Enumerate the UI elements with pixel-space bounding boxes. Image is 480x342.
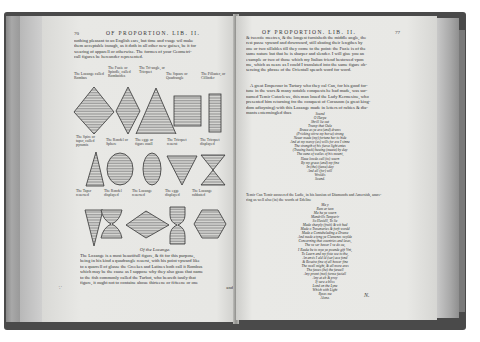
- rondel-shape: [107, 153, 133, 185]
- lozange-poem-2: Ma y Rum ar tam Ma ha ye sourn Mandrills…: [265, 203, 385, 300]
- caption-square: The Square or Quadrangle: [166, 72, 200, 80]
- right-margin-mark: N.: [364, 292, 370, 298]
- caption-pillaster: The Pillaster, or Cillinder: [201, 72, 233, 80]
- lozange-reversed-shape: [126, 211, 169, 238]
- left-intro-text: nothing pleasant to an English eare, but…: [74, 38, 232, 60]
- caption-lozange-reversed: The Lozange reuersed: [132, 189, 162, 197]
- lozange-poem-1: Sound O Harpe Shrill lie out Trump that …: [270, 112, 370, 181]
- caption-tricquet-reversed: The Tricquet reuerst: [167, 138, 197, 146]
- square-shape: [174, 96, 201, 126]
- cover-edge-right: [459, 30, 465, 312]
- taper-reversed-shape: [85, 210, 103, 246]
- page-edges-right: [437, 18, 459, 318]
- caption-taper-reversed: The Taper reuersed: [76, 189, 102, 197]
- fuzie-shape: [116, 87, 140, 134]
- figure-row-1: [70, 84, 240, 134]
- caption-fuzie: The Fuzie or Spindle, called Romboides: [108, 66, 138, 79]
- pillaster-shape: [209, 94, 221, 132]
- caption-lozange-rabbated: The Lozange rabbated: [192, 189, 224, 197]
- lozange-rabbated-shape: [194, 210, 226, 238]
- egge-shape: [143, 153, 161, 185]
- left-body-text: The Lozange is a most beautifull figure,…: [80, 253, 233, 291]
- text-line: seruing the phrase of the Orientall spea…: [246, 67, 404, 72]
- caption-egge-displayed: The egge displayed: [165, 189, 191, 197]
- catchword: and: [80, 285, 233, 290]
- triangle-shape: [136, 88, 176, 134]
- caption-rondel: The Rondel or Sphere: [106, 138, 132, 146]
- lozange-shape: [74, 87, 114, 134]
- caption-tricquet-displayed: The Tricquet displayed: [200, 138, 232, 146]
- page-edges-left-inner: [20, 16, 42, 322]
- egge-displayed-shape: [170, 207, 185, 244]
- caption-triangle: The Tri-angle, or Tricquet: [139, 66, 165, 74]
- caption-lozange: The Lozange called Rombus: [74, 72, 108, 80]
- figure-row-3: [70, 206, 240, 246]
- tricquet-displayed-shape: [201, 155, 225, 185]
- left-page-number: 70: [74, 31, 79, 36]
- figure-row-2: [70, 152, 240, 188]
- text-line: call figures be hereunder represented.: [74, 54, 232, 59]
- left-margin-mark: ∵: [58, 284, 61, 290]
- caption-egge: The egge or figure ouall: [135, 138, 163, 146]
- spire-shape: [86, 152, 104, 186]
- text-line: ring as well also (in) the words of Edel…: [246, 198, 421, 203]
- section-title: Of the Lozange.: [110, 247, 200, 252]
- rondel-displayed-shape: [101, 210, 122, 238]
- right-paragraph-2: A great Emperour in Tartary whō they cal…: [246, 83, 404, 115]
- right-paragraph-3: Temir Can Temir answered the Ladie, in h…: [246, 193, 421, 202]
- page-edges-left: [6, 16, 20, 322]
- tricquet-reversed-shape: [167, 156, 197, 185]
- left-running-head: OF PROPORTION. LIB. II.: [106, 30, 200, 36]
- poem-line: Sound.: [270, 177, 370, 181]
- caption-spire: The Spire or taper, called pyramis: [76, 135, 104, 148]
- caption-rondel-displayed: The Rondel displayed: [104, 189, 130, 197]
- right-paragraph-1: & twentie meetres, & the longest furnish…: [246, 35, 404, 73]
